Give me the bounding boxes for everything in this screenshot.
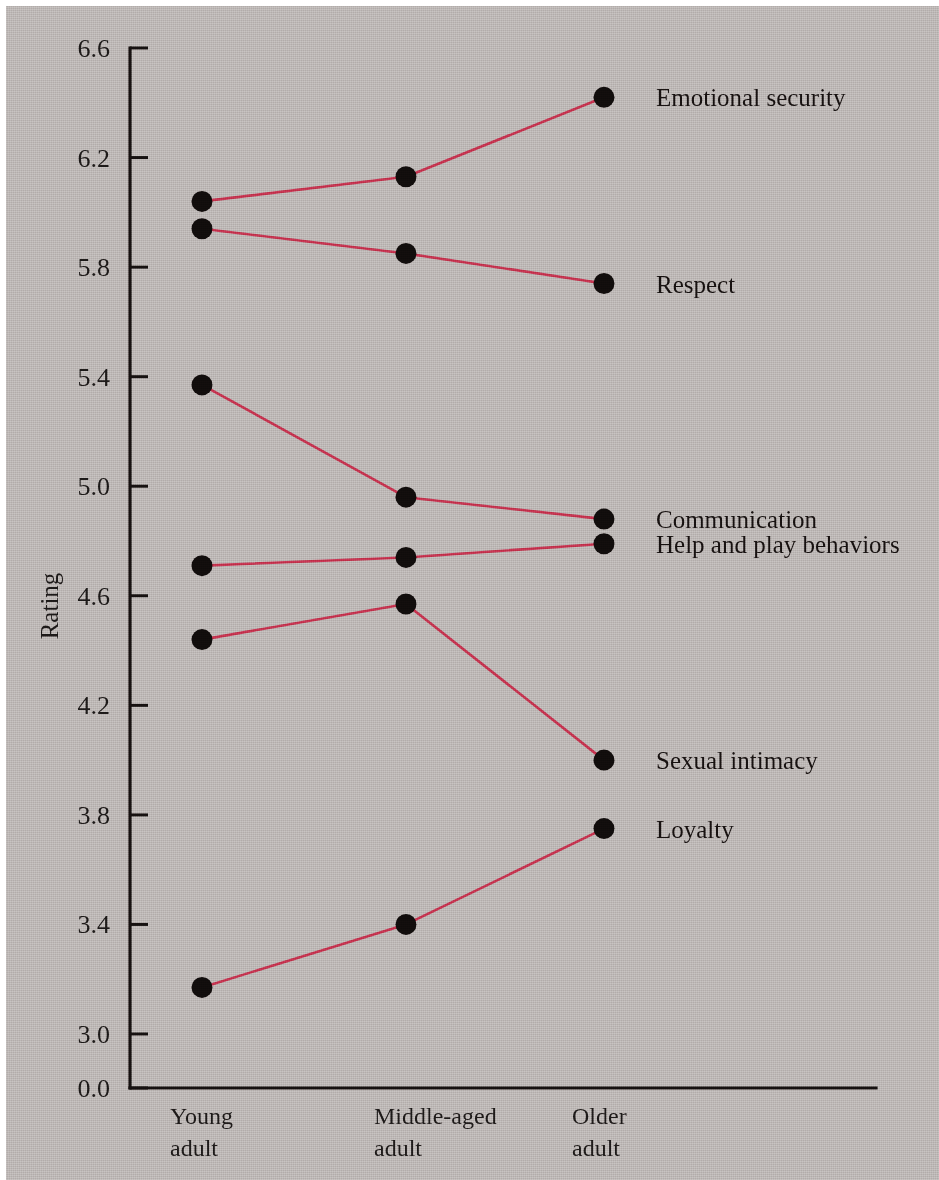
x-axis-category-label-line2: adult [374,1135,422,1161]
data-point-marker[interactable] [594,533,615,554]
data-point-marker[interactable] [192,374,213,395]
y-axis-tick-label: 5.4 [78,363,111,392]
series-label: Sexual intimacy [656,747,818,774]
chart-plate: 0.03.03.43.84.24.65.05.45.86.26.6 Rating… [6,6,939,1180]
series-label: Emotional security [656,84,846,111]
data-point-marker[interactable] [396,243,417,264]
x-axis-category-label: Middle-aged [374,1103,497,1129]
data-point-marker[interactable] [396,914,417,935]
y-axis-tick-label: 5.0 [78,472,111,501]
data-point-marker[interactable] [192,555,213,576]
data-point-marker[interactable] [594,818,615,839]
y-tick-layer: 0.03.03.43.84.24.65.05.45.86.26.6 [78,34,149,1103]
data-point-marker[interactable] [396,166,417,187]
x-axis-category-label-line2: adult [572,1135,620,1161]
y-axis-tick-label: 3.0 [78,1020,111,1049]
data-point-marker[interactable] [192,629,213,650]
y-axis-tick-label: 3.8 [78,801,111,830]
y-axis-tick-label: 4.6 [78,582,111,611]
data-point-marker[interactable] [192,977,213,998]
y-axis-title: Rating [36,572,63,639]
x-axis-category-label: Older [572,1103,627,1129]
x-axis-category-label: Young [170,1103,233,1129]
series-label-layer: Emotional securityRespectCommunicationHe… [656,84,900,842]
series-layer [192,87,615,998]
series-label: Communication [656,506,818,533]
y-axis-tick-label: 6.2 [78,144,111,173]
data-point-marker[interactable] [396,487,417,508]
series-line [202,604,604,760]
data-point-marker[interactable] [396,593,417,614]
series-line [202,829,604,988]
series-label: Help and play behaviors [656,531,900,558]
axes-layer [130,48,876,1088]
data-point-marker[interactable] [192,218,213,239]
y-axis-tick-label: 3.4 [78,910,111,939]
series-label: Loyalty [656,816,734,843]
figure-container: 0.03.03.43.84.24.65.05.45.86.26.6 Rating… [0,0,939,1180]
y-axis-tick-label: 6.6 [78,34,111,63]
y-axis-tick-label: 0.0 [78,1074,111,1103]
category-label-layer: YoungadultMiddle-agedadultOlderadult [170,1103,627,1161]
x-axis-category-label-line2: adult [170,1135,218,1161]
series-label: Respect [656,271,735,298]
data-point-marker[interactable] [594,509,615,530]
data-point-marker[interactable] [594,87,615,108]
y-axis-tick-label: 4.2 [78,691,111,720]
y-axis-title-layer: Rating [36,572,63,639]
line-chart: 0.03.03.43.84.24.65.05.45.86.26.6 Rating… [6,6,939,1180]
data-point-marker[interactable] [594,273,615,294]
data-point-marker[interactable] [396,547,417,568]
data-point-marker[interactable] [594,750,615,771]
data-point-marker[interactable] [192,191,213,212]
y-axis-tick-label: 5.8 [78,253,111,282]
